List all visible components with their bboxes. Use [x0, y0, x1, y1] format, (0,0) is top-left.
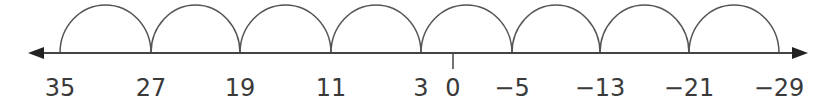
right-arrow-icon: [792, 47, 808, 59]
hop-arc: [512, 5, 600, 53]
point-label: 27: [136, 74, 167, 102]
hop-arc: [240, 5, 331, 53]
point-label: −13: [575, 74, 626, 102]
point-label: −29: [754, 74, 805, 102]
point-label: −21: [664, 74, 715, 102]
hop-arc: [421, 5, 512, 53]
number-line-diagram: 0 352719113−5−13−21−29: [0, 0, 832, 108]
point-labels: 352719113−5−13−21−29: [45, 74, 805, 102]
hop-arc: [151, 5, 240, 53]
hop-arc: [689, 5, 779, 53]
left-arrow-icon: [28, 47, 44, 59]
point-label: −5: [494, 74, 529, 102]
point-label: 3: [413, 74, 428, 102]
hop-arc: [60, 5, 151, 53]
hop-arcs: [60, 5, 779, 53]
zero-label: 0: [445, 74, 460, 102]
point-label: 11: [316, 74, 347, 102]
point-label: 35: [45, 74, 76, 102]
hop-arc: [600, 5, 689, 53]
hop-arc: [331, 5, 421, 53]
point-label: 19: [225, 74, 256, 102]
